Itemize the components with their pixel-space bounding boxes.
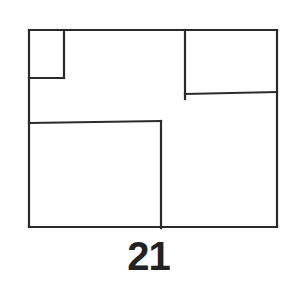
inner-partitions (29, 30, 277, 228)
outer-rectangle (29, 30, 277, 227)
top-right-box-bottom (185, 92, 277, 94)
bottom-left-box-top (29, 121, 161, 123)
figure-number-label: 21 (0, 236, 297, 276)
